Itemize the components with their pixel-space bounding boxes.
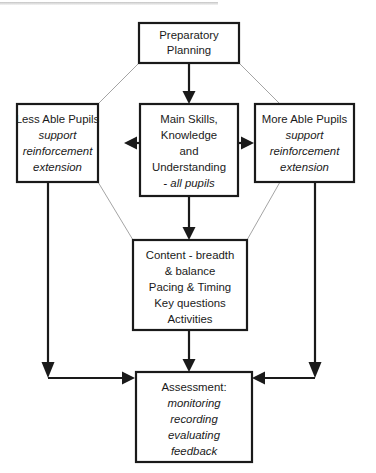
- main-skills-line-3: Understanding: [152, 161, 226, 173]
- arrowhead-main-to-content: [183, 227, 196, 240]
- assessment-line-4: feedback: [171, 445, 219, 457]
- arrowhead-less-able-down: [42, 362, 55, 378]
- content-line-4: Activities: [168, 313, 213, 325]
- preparatory-planning-line-1: Planning: [167, 44, 211, 56]
- connector-less-able-to-content: [98, 182, 133, 240]
- node-less-able-pupils[interactable]: Less Able Pupils support reinforcement e…: [16, 104, 100, 182]
- arrowhead-main-to-less-able: [124, 137, 137, 150]
- main-skills-line-0: Main Skills,: [160, 113, 218, 125]
- main-skills-line-1: Knowledge: [161, 129, 217, 141]
- assessment-line-2: recording: [170, 413, 218, 425]
- arrowhead-main-to-more-able: [241, 137, 254, 150]
- main-skills-line-2: and: [179, 145, 198, 157]
- assessment-line-1: monitoring: [167, 397, 221, 409]
- assessment-line-0: Assessment:: [161, 381, 226, 393]
- arrowhead-more-able-to-assessment: [252, 372, 265, 385]
- assessment-line-3: evaluating: [168, 429, 221, 441]
- content-line-3: Key questions: [154, 297, 226, 309]
- node-main-skills[interactable]: Main Skills, Knowledge and Understanding…: [140, 104, 238, 196]
- content-line-1: & balance: [165, 265, 216, 277]
- main-skills-line-4: - all pupils: [163, 177, 215, 189]
- arrowhead-content-to-assessment: [183, 359, 196, 372]
- preparatory-planning-line-0: Preparatory: [159, 29, 219, 41]
- content-line-0: Content - breadth: [146, 249, 235, 261]
- arrowhead-less-able-to-assessment: [122, 372, 135, 385]
- connector-planning-to-less-able: [98, 63, 139, 104]
- less-able-pupils-line-2: reinforcement: [23, 145, 93, 157]
- more-able-pupils-line-0: More Able Pupils: [262, 113, 348, 125]
- node-assessment[interactable]: Assessment: monitoring recording evaluat…: [136, 372, 252, 462]
- more-able-pupils-line-2: reinforcement: [270, 145, 340, 157]
- connector-more-able-to-content: [247, 182, 280, 240]
- less-able-pupils-line-3: extension: [33, 161, 82, 173]
- diagram-page: Preparatory Planning Less Able Pupils su…: [0, 0, 376, 473]
- arrowhead-planning-to-main: [183, 91, 196, 104]
- less-able-pupils-line-0: Less Able Pupils: [16, 113, 100, 125]
- content-line-2: Pacing & Timing: [149, 281, 231, 293]
- less-able-pupils-line-1: support: [39, 129, 78, 141]
- node-content[interactable]: Content - breadth & balance Pacing & Tim…: [133, 240, 247, 330]
- more-able-pupils-line-3: extension: [280, 161, 329, 173]
- flowchart-canvas: Preparatory Planning Less Able Pupils su…: [0, 0, 376, 473]
- arrowhead-more-able-down: [309, 362, 322, 378]
- node-more-able-pupils[interactable]: More Able Pupils support reinforcement e…: [255, 104, 354, 182]
- node-preparatory-planning[interactable]: Preparatory Planning: [139, 23, 239, 63]
- more-able-pupils-line-1: support: [286, 129, 325, 141]
- connector-planning-to-more-able: [239, 63, 280, 104]
